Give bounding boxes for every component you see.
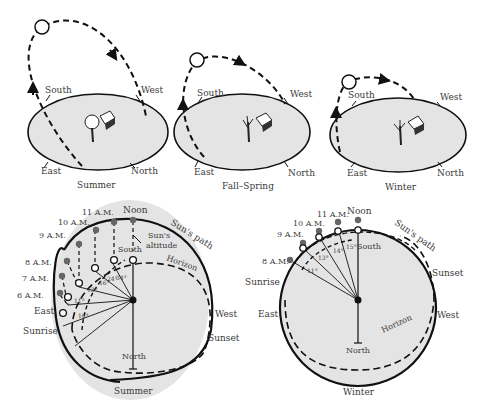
label-7am: 7 A.M.	[22, 274, 49, 283]
summer-sky-dome: 6 A.M. 7 A.M. 8 A.M. 9 A.M. 10 A.M. 11 A…	[17, 200, 240, 400]
label-suns-altitude-1: Sun's	[148, 231, 170, 240]
caption-winter: Winter	[385, 182, 417, 192]
label-suns-altitude-2: altitude	[146, 241, 178, 250]
label-sunrise: Sunrise	[245, 277, 280, 287]
label-sunrise: Sunrise	[23, 326, 58, 336]
sun-icon	[342, 75, 356, 89]
label-11am: 11 A.M.	[82, 208, 114, 217]
label-south: South	[118, 245, 142, 254]
label-10am: 10 A.M.	[58, 218, 90, 227]
label-west: West	[440, 92, 462, 102]
angle-label: 14°	[333, 247, 344, 254]
label-north: North	[288, 168, 315, 178]
angle-label: 13°	[87, 286, 98, 293]
label-8am: 8 A.M.	[25, 258, 52, 267]
angle-label: 11°	[307, 267, 318, 274]
label-noon: Noon	[123, 205, 148, 215]
label-6am: 6 A.M.	[17, 291, 44, 300]
sun-icon	[35, 20, 49, 34]
label-11am: 11 A.M.	[317, 210, 349, 219]
winter-sky-dome: 8 A.M. 9 A.M. 10 A.M. 11 A.M. Noon Sun's…	[245, 206, 464, 397]
angle-label: 10°	[78, 312, 89, 319]
label-9am: 9 A.M.	[39, 231, 66, 240]
label-east: East	[347, 168, 368, 178]
ground-disk	[330, 98, 466, 172]
label-north: North	[346, 346, 370, 355]
panel-summer-perspective: South West East North Summer	[28, 20, 168, 190]
angle-label: 15°	[346, 243, 357, 250]
sun-icon	[190, 53, 204, 67]
label-north: North	[122, 352, 146, 361]
panel-fall-spring-perspective: South West East North Fall–Spring	[174, 53, 315, 191]
ground-disk	[28, 94, 168, 170]
label-east: East	[41, 166, 62, 176]
label-south: South	[197, 88, 224, 98]
label-noon: Noon	[347, 206, 372, 216]
panel-winter-perspective: South West East North Winter	[330, 75, 466, 192]
caption-winter-sky: Winter	[343, 387, 375, 397]
label-west: West	[290, 89, 312, 99]
ground-disk	[174, 94, 310, 170]
label-sunset: Sunset	[208, 333, 240, 343]
label-sunset: Sunset	[432, 268, 464, 278]
label-south: South	[348, 90, 375, 100]
label-south: South	[357, 242, 381, 251]
label-east: East	[258, 309, 279, 319]
label-west: West	[437, 310, 459, 320]
angle-label: 13°	[318, 254, 329, 261]
label-south: South	[45, 85, 72, 95]
sun-path-diagram: South West East North Summer South West …	[0, 0, 481, 414]
label-east: East	[34, 306, 55, 316]
caption-summer-sky: Summer	[114, 386, 153, 396]
label-8am: 8 A.M.	[262, 257, 289, 266]
caption-summer: Summer	[77, 180, 116, 190]
label-north: North	[437, 168, 464, 178]
label-west: West	[215, 309, 237, 319]
label-west: West	[141, 85, 163, 95]
label-10am: 10 A.M.	[293, 219, 325, 228]
label-9am: 9 A.M.	[277, 230, 304, 239]
caption-fall-spring: Fall–Spring	[222, 181, 274, 191]
angle-label: 11°	[74, 297, 85, 304]
angle-label: 34°	[116, 274, 127, 281]
label-east: East	[194, 167, 215, 177]
label-north: North	[131, 166, 158, 176]
